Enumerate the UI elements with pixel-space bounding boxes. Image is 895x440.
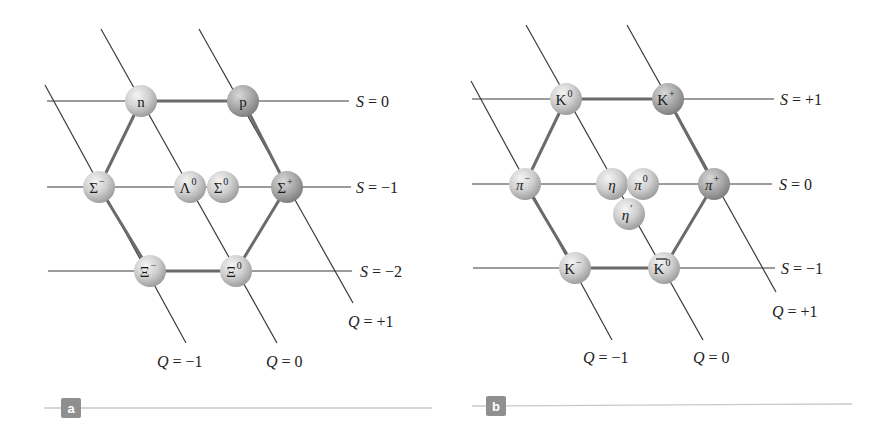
strangeness-label: S = 0 (779, 176, 812, 193)
panel-badge: a (61, 398, 81, 418)
svg-text:a: a (67, 401, 75, 416)
particle-pion-plus: π+ (698, 168, 730, 200)
charge-label: Q = +1 (348, 313, 394, 330)
charge-label: Q = 0 (266, 353, 303, 370)
strangeness-label: S = 0 (356, 93, 389, 110)
strangeness-label: S = −1 (356, 179, 398, 196)
particle-anti-kaon-zero: K0 (648, 252, 680, 284)
panel-badge: b (486, 396, 506, 416)
particle-pion-zero: π0 (627, 168, 659, 200)
panel-b-meson-nonet: S = +1S = 0S = −1Q = −1Q = 0Q = +1K0K+π−… (471, 25, 852, 416)
strangeness-label: S = +1 (780, 91, 822, 108)
particle-sigma-minus: Σ− (83, 171, 115, 203)
particle-xi-zero: Ξ0 (220, 255, 252, 287)
particle-lambda-zero: Λ0 (174, 171, 206, 203)
particle-eta: η (596, 168, 628, 200)
strangeness-label: S = −2 (360, 263, 402, 280)
particle-symbol: η (608, 177, 615, 193)
particle-symbol: n (137, 94, 145, 110)
particle-kaon-plus: K+ (652, 83, 684, 115)
strangeness-label: S = −1 (781, 260, 823, 277)
particle-eta-prime: η′ (613, 198, 645, 230)
particle-proton: p (227, 85, 259, 117)
particle-symbol: p (239, 94, 247, 110)
charge-label: Q = +1 (772, 303, 818, 320)
particle-kaon-zero: K0 (550, 83, 582, 115)
svg-text:b: b (492, 399, 500, 414)
charge-label: Q = 0 (693, 349, 730, 366)
particle-sigma-zero: Σ0 (207, 171, 239, 203)
particle-xi-minus: Ξ− (134, 255, 166, 287)
charge-label: Q = −1 (157, 353, 203, 370)
particle-kaon-minus: K− (559, 252, 591, 284)
particle-sigma-plus: Σ+ (271, 171, 303, 203)
charge-label: Q = −1 (583, 349, 629, 366)
panel-a-baryon-octet: S = 0S = −1S = −2Q = −1Q = 0Q = +1npΣ−Λ0… (44, 29, 432, 418)
particle-pion-minus: π− (509, 168, 541, 200)
caption-rule (472, 404, 852, 406)
particle-neutron: n (125, 85, 157, 117)
eightfold-way-figure: S = 0S = −1S = −2Q = −1Q = 0Q = +1npΣ−Λ0… (0, 0, 895, 440)
